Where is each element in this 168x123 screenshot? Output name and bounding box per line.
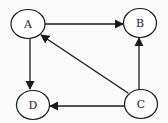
node-b: B xyxy=(124,9,157,38)
node-b-label: B xyxy=(136,17,144,30)
node-a-label: A xyxy=(23,18,33,31)
graph-svg: A B C D xyxy=(0,0,168,123)
node-d-label: D xyxy=(29,99,38,112)
node-c-label: C xyxy=(137,98,145,111)
edge-c-to-a xyxy=(41,35,128,93)
node-c: C xyxy=(125,90,158,119)
node-d: D xyxy=(17,91,50,120)
graph-canvas: A B C D xyxy=(0,0,168,123)
node-a: A xyxy=(11,10,45,39)
